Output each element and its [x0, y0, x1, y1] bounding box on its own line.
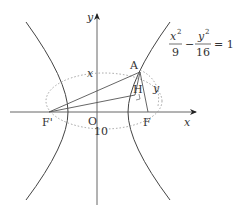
hyperbola-right-branch: [128, 22, 170, 200]
svg-text:2: 2: [177, 28, 181, 36]
segment-F-prime-H: [49, 95, 135, 112]
hyperbola-equation: x 2 9 − y 2 16 = 1: [169, 28, 234, 59]
point-F-label: F: [143, 116, 151, 129]
svg-text:= 1: = 1: [214, 38, 234, 51]
svg-text:16: 16: [196, 46, 210, 59]
hyperbola-left-branch: [26, 22, 68, 200]
svg-text:2: 2: [205, 28, 209, 36]
point-F-prime-label: F': [42, 116, 53, 129]
segment-y-label: y: [152, 82, 160, 95]
diagram-canvas: y x O A H F F' x y 10 x 2 9 − y 2 16 = 1: [0, 0, 236, 209]
svg-text:x: x: [170, 30, 177, 43]
svg-text:−: −: [185, 38, 194, 51]
point-H-label: H: [133, 83, 143, 96]
svg-text:9: 9: [172, 46, 179, 59]
point-A-label: A: [129, 59, 139, 72]
segment-10-label: 10: [94, 125, 108, 138]
y-axis-label: y: [86, 11, 94, 24]
segment-x-label: x: [87, 67, 94, 80]
x-axis-label: x: [184, 116, 191, 129]
segment-F-prime-A: [49, 72, 140, 112]
svg-text:y: y: [197, 30, 205, 43]
